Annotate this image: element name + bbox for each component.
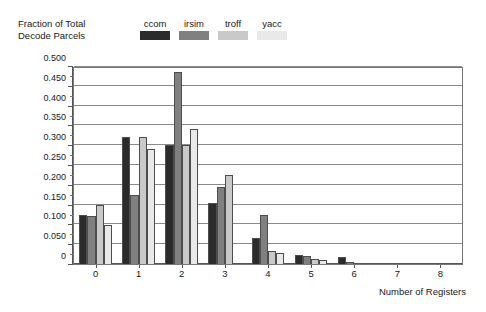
x-tick-mark bbox=[139, 265, 140, 268]
x-tick-label: 0 bbox=[93, 268, 98, 280]
bar-group-7 bbox=[381, 68, 414, 264]
legend-item-ccom: ccom bbox=[140, 18, 170, 40]
x-tick-label: 6 bbox=[352, 268, 357, 280]
x-tick-label: 2 bbox=[179, 268, 184, 280]
bar-ccom-4 bbox=[252, 238, 260, 264]
bars-layer bbox=[74, 68, 462, 264]
x-tick-mark bbox=[354, 265, 355, 268]
legend-label: irsim bbox=[184, 18, 204, 29]
bar-group-8 bbox=[424, 68, 457, 264]
y-tick-label: 0.450 bbox=[2, 73, 66, 82]
bar-yacc-5 bbox=[319, 260, 327, 264]
legend-item-irsim: irsim bbox=[179, 18, 209, 40]
bar-group-5 bbox=[295, 68, 328, 264]
y-tick-label: 0 bbox=[2, 252, 66, 261]
chart-legend: ccomirsimtroffyacc bbox=[140, 18, 287, 40]
bar-irsim-4 bbox=[260, 215, 268, 265]
bar-irsim-0 bbox=[87, 216, 95, 264]
bar-yacc-0 bbox=[104, 225, 112, 264]
bar-troff-4 bbox=[268, 251, 276, 264]
legend-label: ccom bbox=[144, 18, 167, 29]
bar-troff-2 bbox=[182, 145, 190, 264]
x-tick-mark bbox=[311, 265, 312, 268]
bar-ccom-1 bbox=[122, 137, 130, 264]
bar-yacc-2 bbox=[190, 129, 198, 264]
legend-label: troff bbox=[225, 18, 241, 29]
bar-troff-0 bbox=[96, 205, 104, 264]
y-axis-ticks: 00.0500.1000.1500.2000.2500.3000.3500.40… bbox=[0, 67, 73, 265]
x-tick-label: 4 bbox=[265, 268, 270, 280]
y-tick-label: 0.400 bbox=[2, 93, 66, 102]
y-tick-label: 0.200 bbox=[2, 172, 66, 181]
bar-irsim-5 bbox=[303, 256, 311, 264]
bar-group-0 bbox=[79, 68, 112, 264]
x-tick-mark bbox=[397, 265, 398, 268]
y-tick-label: 0.100 bbox=[2, 212, 66, 221]
bar-troff-3 bbox=[225, 175, 233, 264]
bar-yacc-4 bbox=[276, 253, 284, 264]
x-axis-tick-labels: 012345678 bbox=[73, 268, 463, 282]
legend-swatch bbox=[179, 31, 209, 40]
bar-irsim-3 bbox=[217, 187, 225, 264]
x-tick-label: 3 bbox=[222, 268, 227, 280]
bar-ccom-3 bbox=[208, 203, 216, 264]
plot-area bbox=[73, 67, 463, 265]
x-tick-mark bbox=[182, 265, 183, 268]
legend-item-yacc: yacc bbox=[257, 18, 287, 40]
bar-ccom-5 bbox=[295, 255, 303, 264]
y-axis-title: Fraction of Total Decode Parcels bbox=[18, 18, 85, 42]
bar-yacc-1 bbox=[147, 149, 155, 264]
bar-irsim-6 bbox=[346, 262, 354, 264]
x-tick-mark bbox=[96, 265, 97, 268]
bar-group-6 bbox=[338, 68, 371, 264]
gridline bbox=[74, 66, 462, 67]
y-tick-label: 0.150 bbox=[2, 192, 66, 201]
bar-group-2 bbox=[165, 68, 198, 264]
bar-group-3 bbox=[208, 68, 241, 264]
y-tick-label: 0.300 bbox=[2, 133, 66, 142]
x-tick-label: 1 bbox=[136, 268, 141, 280]
legend-item-troff: troff bbox=[218, 18, 248, 40]
bar-group-1 bbox=[122, 68, 155, 264]
x-tick-mark bbox=[268, 265, 269, 268]
bar-ccom-6 bbox=[338, 257, 346, 264]
x-tick-mark bbox=[440, 265, 441, 268]
x-tick-label: 8 bbox=[438, 268, 443, 280]
y-tick-label: 0.350 bbox=[2, 113, 66, 122]
x-axis-title: Number of Registers bbox=[0, 286, 466, 297]
x-tick-label: 5 bbox=[308, 268, 313, 280]
y-tick-label: 0.250 bbox=[2, 153, 66, 162]
x-tick-mark bbox=[225, 265, 226, 268]
x-tick-label: 7 bbox=[395, 268, 400, 280]
bar-irsim-2 bbox=[174, 72, 182, 264]
bar-group-4 bbox=[252, 68, 285, 264]
legend-swatch bbox=[218, 31, 248, 40]
bar-irsim-1 bbox=[130, 195, 138, 264]
legend-swatch bbox=[257, 31, 287, 40]
bar-troff-5 bbox=[311, 259, 319, 264]
bar-troff-1 bbox=[139, 137, 147, 264]
y-tick-label: 0.500 bbox=[2, 54, 66, 63]
bar-ccom-0 bbox=[79, 215, 87, 265]
y-tick-label: 0.050 bbox=[2, 232, 66, 241]
legend-swatch bbox=[140, 31, 170, 40]
bar-ccom-2 bbox=[165, 145, 173, 264]
legend-label: yacc bbox=[262, 18, 282, 29]
